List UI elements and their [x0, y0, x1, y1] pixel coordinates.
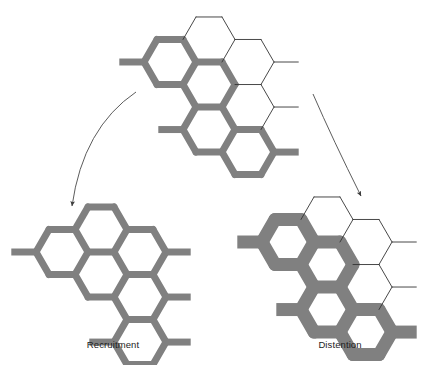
capillary-recruitment-distention-figure: Recruitment Distention	[0, 0, 425, 365]
caption-distention: Distention	[318, 339, 361, 350]
caption-recruitment: Recruitment	[87, 339, 140, 350]
